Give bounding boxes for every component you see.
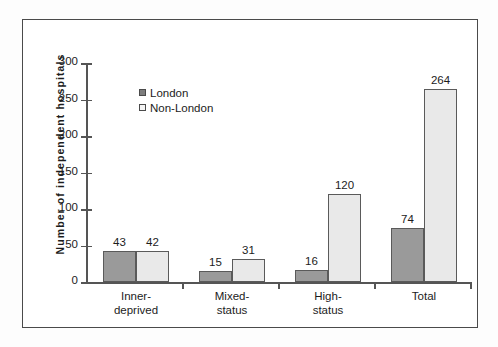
x-tick-mark bbox=[182, 282, 184, 289]
chart-legend: London Non-London bbox=[137, 83, 217, 117]
y-tick-label: 50 bbox=[44, 238, 78, 250]
x-category-label-total: Total bbox=[412, 290, 436, 304]
y-axis-title: Number of independent hospitals bbox=[54, 39, 66, 269]
y-tick-mark bbox=[81, 282, 92, 284]
bar-nonlondon-total[interactable]: 264 bbox=[424, 89, 457, 282]
bar-value-label: 42 bbox=[146, 236, 159, 248]
category-line-2: status bbox=[215, 304, 250, 318]
legend-label: Non-London bbox=[150, 102, 213, 114]
bar-london-mixed-status[interactable]: 15 bbox=[199, 271, 232, 282]
legend-label: London bbox=[150, 87, 188, 99]
x-category-label-inner-deprived: Inner- deprived bbox=[114, 290, 158, 317]
category-line-2: deprived bbox=[114, 304, 158, 318]
bar-value-label: 264 bbox=[431, 74, 450, 86]
bar-nonlondon-inner-deprived[interactable]: 42 bbox=[136, 251, 169, 282]
category-line-1: High- bbox=[313, 290, 344, 304]
x-category-label-high-status: High- status bbox=[313, 290, 344, 317]
legend-swatch-icon bbox=[139, 89, 146, 96]
bar-value-label: 120 bbox=[335, 179, 354, 191]
category-line-1: Total bbox=[412, 290, 436, 304]
category-line-1: Inner- bbox=[114, 290, 158, 304]
x-tick-mark bbox=[374, 282, 376, 289]
y-tick-label: 250 bbox=[44, 92, 78, 104]
category-line-2: status bbox=[313, 304, 344, 318]
bar-value-label: 15 bbox=[209, 256, 222, 268]
bar-london-inner-deprived[interactable]: 43 bbox=[103, 251, 136, 282]
y-tick-label: 100 bbox=[44, 201, 78, 213]
bar-value-label: 16 bbox=[305, 255, 318, 267]
legend-swatch-icon bbox=[139, 104, 146, 111]
x-category-label-mixed-status: Mixed- status bbox=[215, 290, 250, 317]
chart-frame: Number of independent hospitals 300 250 … bbox=[22, 19, 478, 328]
bar-value-label: 74 bbox=[401, 213, 414, 225]
bar-london-total[interactable]: 74 bbox=[391, 228, 424, 282]
category-line-1: Mixed- bbox=[215, 290, 250, 304]
bar-value-label: 43 bbox=[113, 236, 126, 248]
figure-canvas: Number of independent hospitals 300 250 … bbox=[0, 0, 498, 347]
y-tick-label: 300 bbox=[44, 55, 78, 67]
legend-item-non-london[interactable]: Non-London bbox=[139, 100, 213, 115]
bar-london-high-status[interactable]: 16 bbox=[295, 270, 328, 282]
y-tick-label: 200 bbox=[44, 128, 78, 140]
x-tick-mark bbox=[278, 282, 280, 289]
bar-nonlondon-mixed-status[interactable]: 31 bbox=[232, 259, 265, 282]
legend-item-london[interactable]: London bbox=[139, 85, 213, 100]
y-tick-label: 150 bbox=[44, 165, 78, 177]
bar-value-label: 31 bbox=[242, 244, 255, 256]
x-tick-mark bbox=[470, 282, 472, 289]
bar-nonlondon-high-status[interactable]: 120 bbox=[328, 194, 361, 282]
y-tick-label: 0 bbox=[44, 274, 78, 286]
